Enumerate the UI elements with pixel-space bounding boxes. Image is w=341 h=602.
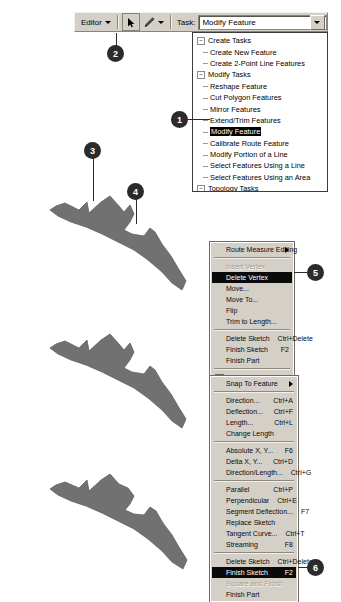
vertex-menu-item-5[interactable]: Move To... xyxy=(212,294,292,305)
sketch-menu-item-label: Snap To Feature xyxy=(226,380,278,387)
sketch-menu-item-14[interactable]: Replace Sketch xyxy=(212,517,296,528)
toolbar-separator xyxy=(170,15,172,29)
sketch-menu-item-accelerator: Ctrl+L xyxy=(266,419,293,426)
task-item-0-0[interactable]: Create New Feature xyxy=(193,46,327,57)
sketch-menu-item-13[interactable]: Segment Deflection...F7 xyxy=(212,506,296,517)
task-item-1-1[interactable]: Cut Polygon Features xyxy=(193,92,327,103)
tree-collapse-icon[interactable]: − xyxy=(197,185,205,192)
sketch-menu-separator xyxy=(214,391,294,393)
task-item-1-3[interactable]: Extend/Trim Features xyxy=(193,115,327,126)
vertex-menu-item-6[interactable]: Flip xyxy=(212,305,292,316)
vertex-menu-item-label: Trim to Length... xyxy=(226,318,277,325)
sketch-menu-item-16[interactable]: StreamingF8 xyxy=(212,539,296,550)
sketch-menu-item-15[interactable]: Tangent Curve...Ctrl+T xyxy=(212,528,296,539)
task-group-0[interactable]: −Create Tasks xyxy=(193,35,327,46)
sketch-menu-item-accelerator: F8 xyxy=(277,541,293,548)
sketch-menu-item-label: Finish Sketch xyxy=(226,569,268,576)
task-item-1-5[interactable]: Calibrate Route Feature xyxy=(193,138,327,149)
task-group-2[interactable]: −Topology Tasks xyxy=(193,183,327,192)
sketch-menu-item-label: Length... xyxy=(226,419,253,426)
sketch-menu-item-2[interactable]: Direction...Ctrl+A xyxy=(212,395,296,406)
sketch-menu-item-label: Absolute X, Y... xyxy=(226,447,273,454)
task-combobox[interactable]: Modify Feature xyxy=(198,15,327,30)
sketch-menu-item-3[interactable]: Deflection...Ctrl+F xyxy=(212,406,296,417)
task-item-1-0[interactable]: Reshape Feature xyxy=(193,81,327,92)
sketch-menu-item-accelerator: F7 xyxy=(293,508,309,515)
vertex-menu-item-label: Flip xyxy=(226,307,237,314)
task-combobox-value: Modify Feature xyxy=(199,18,255,27)
sketch-menu-item-8[interactable]: Delta X, Y...Ctrl+D xyxy=(212,456,296,467)
vertex-menu-item-9[interactable]: Delete SketchCtrl+Delete xyxy=(212,333,292,344)
sketch-menu-item-label: Delta X, Y... xyxy=(226,458,262,465)
vertex-menu-item-3[interactable]: Delete Vertex xyxy=(212,272,292,283)
sketch-menu-item-7[interactable]: Absolute X, Y...F6 xyxy=(212,445,296,456)
sketch-menu-item-accelerator: F6 xyxy=(277,447,293,454)
vertex-menu-item-label: Finish Sketch xyxy=(226,346,268,353)
task-group-label: Topology Tasks xyxy=(208,184,258,192)
task-item-1-7[interactable]: Select Features Using a Line xyxy=(193,160,327,171)
sketch-menu-item-12[interactable]: PerpendicularCtrl+E xyxy=(212,495,296,506)
callout-badge-4: 4 xyxy=(128,184,143,199)
sketch-menu-item-19[interactable]: Finish SketchF2 xyxy=(212,567,296,578)
sketch-menu-item-accelerator: Ctrl+P xyxy=(265,486,293,493)
context-menu-sketch[interactable]: Snap To FeatureDirection...Ctrl+ADeflect… xyxy=(210,376,298,602)
vertex-menu-item-4[interactable]: Move... xyxy=(212,283,292,294)
task-item-label: Reshape Feature xyxy=(210,82,267,91)
tree-collapse-icon[interactable]: − xyxy=(197,37,205,45)
sketch-menu-item-accelerator: Ctrl+D xyxy=(265,458,293,465)
sketch-menu-item-9[interactable]: Direction/Length...Ctrl+G xyxy=(212,467,296,478)
sketch-menu-item-label: Delete Sketch xyxy=(226,558,270,565)
sketch-menu-item-11[interactable]: ParallelCtrl+P xyxy=(212,484,296,495)
sketch-menu-item-label: Segment Deflection... xyxy=(226,508,293,515)
task-group-label: Modify Tasks xyxy=(208,70,251,79)
vertex-menu-item-accelerator: F2 xyxy=(273,346,289,353)
task-item-1-2[interactable]: Mirror Features xyxy=(193,103,327,114)
sketch-menu-item-label: Replace Sketch xyxy=(226,519,275,526)
toolbar-separator xyxy=(117,15,119,29)
sketch-menu-separator xyxy=(214,441,294,443)
vertex-menu-item-label: Move... xyxy=(226,285,249,292)
callout-badge-1: 1 xyxy=(172,112,187,127)
sketch-menu-item-21[interactable]: Finish Part xyxy=(212,589,296,600)
vertex-menu-item-0[interactable]: Route Measure Editing xyxy=(212,244,292,255)
sketch-menu-item-5[interactable]: Change Length xyxy=(212,428,296,439)
task-item-label: Calibrate Route Feature xyxy=(210,139,289,148)
sketch-menu-item-label: Streaming xyxy=(226,541,258,548)
sketch-menu-item-18[interactable]: Delete SketchCtrl+Delete xyxy=(212,556,296,567)
sketch-menu-item-label: Change Length xyxy=(226,430,274,437)
task-item-label: Extend/Trim Features xyxy=(210,116,281,125)
sketch-pencil-tool-button[interactable] xyxy=(140,14,167,30)
sketch-menu-item-4[interactable]: Length...Ctrl+L xyxy=(212,417,296,428)
sketch-menu-separator xyxy=(214,480,294,482)
task-item-0-1[interactable]: Create 2-Point Line Features xyxy=(193,58,327,69)
context-menu-vertex[interactable]: Route Measure EditingInsert VertexDelete… xyxy=(210,242,294,385)
vertex-menu-item-label: Move To... xyxy=(226,296,258,303)
chevron-down-icon xyxy=(105,21,111,24)
polygon-path xyxy=(50,334,186,428)
sketch-menu-separator xyxy=(214,552,294,554)
select-arrow-tool-button[interactable] xyxy=(122,13,140,31)
polygon-path xyxy=(50,196,186,290)
callout-badge-6: 6 xyxy=(308,560,323,575)
callout-badge-2: 2 xyxy=(108,46,123,61)
tree-collapse-icon[interactable]: − xyxy=(197,71,205,79)
combobox-dropdown-button[interactable] xyxy=(310,15,325,30)
vertex-menu-item-10[interactable]: Finish SketchF2 xyxy=(212,344,292,355)
submenu-arrow-icon xyxy=(285,247,289,253)
task-group-1[interactable]: −Modify Tasks xyxy=(193,69,327,80)
vertex-menu-separator xyxy=(214,257,290,259)
submenu-arrow-icon xyxy=(289,381,293,387)
polygon-shape-middle xyxy=(38,318,198,438)
sketch-menu-item-0[interactable]: Snap To Feature xyxy=(212,378,296,389)
sketch-menu-item-accelerator: Ctrl+G xyxy=(283,469,311,476)
editor-menu-button[interactable]: Editor xyxy=(78,14,114,30)
vertex-menu-item-7[interactable]: Trim to Length... xyxy=(212,316,292,327)
task-dropdown-list[interactable]: −Create TasksCreate New FeatureCreate 2-… xyxy=(192,32,328,192)
sketch-menu-item-label: Direction/Length... xyxy=(226,469,283,476)
task-item-1-6[interactable]: Modify Portion of a Line xyxy=(193,149,327,160)
task-item-1-4[interactable]: Modify Feature xyxy=(193,126,327,137)
task-item-1-8[interactable]: Select Features Using an Area xyxy=(193,172,327,183)
cursor-arrow-icon xyxy=(126,17,136,28)
vertex-menu-separator xyxy=(214,368,290,370)
vertex-menu-item-11[interactable]: Finish Part xyxy=(212,355,292,366)
